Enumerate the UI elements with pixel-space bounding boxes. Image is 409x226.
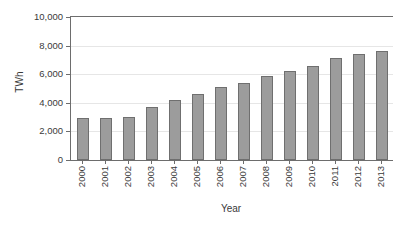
bar-slot (186, 17, 209, 160)
x-tick-label-text: 2009 (284, 166, 294, 187)
x-axis-title: Year (70, 203, 392, 214)
x-tick-mark (312, 159, 313, 164)
y-tick-label: 10,000 (3, 12, 63, 22)
bar[interactable] (215, 87, 227, 160)
x-tick-label-text: 2002 (123, 166, 133, 187)
x-tick-label: 2008 (254, 166, 277, 200)
x-tick-mark (197, 159, 198, 164)
y-tick-label-text: 8,000 (3, 41, 63, 51)
x-tick-label: 2004 (162, 166, 185, 200)
y-tick-label: 0 (3, 155, 63, 165)
x-tick-mark (289, 159, 290, 164)
x-tick-mark (381, 159, 382, 164)
x-tick-mark (174, 159, 175, 164)
x-tick-label: 2010 (300, 166, 323, 200)
bar[interactable] (192, 94, 204, 160)
bar-slot (163, 17, 186, 160)
x-tick-label: 2006 (208, 166, 231, 200)
bar[interactable] (169, 100, 181, 160)
bar[interactable] (238, 83, 250, 160)
x-tick-label: 2011 (323, 166, 346, 200)
bar-slot (301, 17, 324, 160)
x-tick-label: 2003 (139, 166, 162, 200)
bar-slot (71, 17, 94, 160)
x-tick-mark (82, 159, 83, 164)
x-tick-label: 2002 (116, 166, 139, 200)
x-tick-mark (335, 159, 336, 164)
bar-slot (232, 17, 255, 160)
bar[interactable] (376, 51, 388, 160)
x-tick-mark (151, 159, 152, 164)
x-tick-label-text: 2010 (307, 166, 317, 187)
x-tick-mark (358, 159, 359, 164)
bar-slot (255, 17, 278, 160)
bar-slot (209, 17, 232, 160)
y-tick-label-text: 4,000 (3, 98, 63, 108)
bar-slot (117, 17, 140, 160)
y-tick-label: 6,000 (3, 69, 63, 79)
x-tick-label-text: 2011 (330, 166, 340, 186)
x-tick-label: 2001 (93, 166, 116, 200)
bar[interactable] (261, 76, 273, 160)
x-tick-label: 2013 (369, 166, 392, 200)
x-tick-label: 2000 (70, 166, 93, 200)
bar-slot (140, 17, 163, 160)
x-tick-mark (105, 159, 106, 164)
x-tick-label: 2005 (185, 166, 208, 200)
x-axis-tick-labels: 2000200120022003200420052006200720082009… (70, 166, 392, 200)
y-tick-label: 8,000 (3, 41, 63, 51)
x-tick-mark (243, 159, 244, 164)
bar-slot (370, 17, 393, 160)
x-tick-label-text: 2008 (261, 166, 271, 187)
x-tick-label: 2009 (277, 166, 300, 200)
bar[interactable] (77, 118, 89, 160)
bar[interactable] (353, 54, 365, 160)
x-tick-mark (266, 159, 267, 164)
x-tick-label-text: 2003 (146, 166, 156, 187)
x-tick-label-text: 2000 (77, 166, 87, 187)
bar[interactable] (100, 118, 112, 160)
bar-slot (278, 17, 301, 160)
bar[interactable] (146, 107, 158, 160)
bar-chart: TWh 02,0004,0006,0008,00010,000 20002001… (0, 0, 409, 226)
y-tick-label-text: 0 (3, 155, 63, 165)
bar[interactable] (307, 66, 319, 160)
y-tick-label-text: 10,000 (3, 12, 63, 22)
bar-series (71, 17, 393, 160)
x-tick-label-text: 2012 (353, 166, 363, 187)
y-tick-label: 4,000 (3, 98, 63, 108)
y-axis-title: TWh (14, 62, 25, 102)
plot-area: 02,0004,0006,0008,00010,000 (70, 16, 393, 160)
y-tick-label-text: 6,000 (3, 69, 63, 79)
y-tick-label: 2,000 (3, 126, 63, 136)
x-tick-mark (128, 159, 129, 164)
x-tick-label-text: 2001 (100, 166, 110, 187)
bar-slot (347, 17, 370, 160)
bar[interactable] (284, 71, 296, 160)
x-tick-label: 2012 (346, 166, 369, 200)
x-tick-label-text: 2007 (238, 166, 248, 187)
x-tick-label-text: 2004 (169, 166, 179, 187)
bar-slot (94, 17, 117, 160)
y-tick-label-text: 2,000 (3, 126, 63, 136)
x-tick-label-text: 2005 (192, 166, 202, 187)
bar[interactable] (123, 117, 135, 160)
bar-slot (324, 17, 347, 160)
x-tick-label: 2007 (231, 166, 254, 200)
x-tick-label-text: 2006 (215, 166, 225, 187)
bar[interactable] (330, 58, 342, 160)
x-tick-label-text: 2013 (376, 166, 386, 187)
x-tick-mark (220, 159, 221, 164)
